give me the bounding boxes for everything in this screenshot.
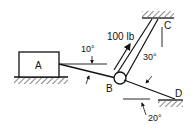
ceiling-c	[142, 11, 174, 18]
label-a: A	[35, 60, 42, 71]
angle-arrow-d-bottom	[142, 103, 146, 115]
rod-bc-left	[116, 19, 152, 75]
label-force: 100 lb	[107, 31, 135, 42]
rope-bd	[124, 80, 175, 99]
label-angle-c: 30°	[143, 52, 157, 62]
statics-diagram: A 10° C 30° 100 lb B D 20°	[0, 0, 196, 131]
label-c: C	[164, 20, 171, 31]
label-angle-d: 20°	[148, 113, 162, 123]
label-b: B	[106, 83, 113, 94]
rod-bc-right	[124, 19, 158, 80]
angle-arrow-d-top	[146, 76, 152, 83]
ground-left	[14, 77, 68, 84]
rope-ab	[59, 64, 116, 78]
label-angle-a: 10°	[81, 44, 95, 54]
ground-d	[158, 100, 183, 107]
angle-arrow-a-bottom	[86, 76, 89, 84]
label-d: D	[175, 88, 182, 99]
pulley-b	[114, 72, 126, 84]
